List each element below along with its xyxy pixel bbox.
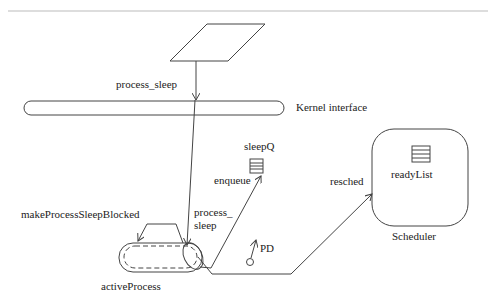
pd-circle-icon <box>247 259 254 266</box>
sleepq-queue-icon <box>250 159 263 173</box>
process-sleep-label-line1: process_ <box>194 206 233 218</box>
pd-arrow <box>251 240 256 258</box>
kernel-interface-bar <box>24 101 284 115</box>
readylist-queue-icon <box>412 146 430 162</box>
external-input-parallelogram <box>170 24 265 61</box>
process-sleep-label-line2: sleep <box>194 219 217 231</box>
make-process-sleep-blocked-arrow <box>138 224 183 243</box>
resched-label: resched <box>330 175 364 187</box>
pd-label: PD <box>260 242 274 254</box>
active-process-label: activeProcess <box>101 280 161 292</box>
active-process-inner-dashed <box>124 246 197 268</box>
diagram-canvas: process_sleep Kernel interface sleepQ en… <box>0 0 492 303</box>
enqueue-label: enqueue <box>214 174 251 186</box>
sleepq-label: sleepQ <box>244 140 275 152</box>
kernel-interface-label: Kernel interface <box>296 101 367 113</box>
scheduler-label: Scheduler <box>392 230 436 242</box>
process-sleep-top-label: process_sleep <box>116 78 178 90</box>
make-process-sleep-blocked-label: makeProcessSleepBlocked <box>21 208 140 220</box>
readylist-label: readyList <box>391 168 433 180</box>
